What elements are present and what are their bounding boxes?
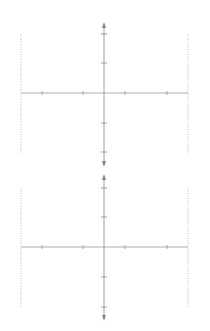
top-axis-arrow-down-icon — [102, 161, 106, 167]
top-axis-arrow-up-icon — [102, 22, 106, 28]
top-panel — [0, 0, 188, 167]
band-diagram — [0, 0, 210, 331]
bottom-axis-arrow-down-icon — [102, 315, 106, 321]
bottom-panel — [21, 174, 188, 321]
bottom-axis-arrow-up-icon — [102, 174, 106, 180]
